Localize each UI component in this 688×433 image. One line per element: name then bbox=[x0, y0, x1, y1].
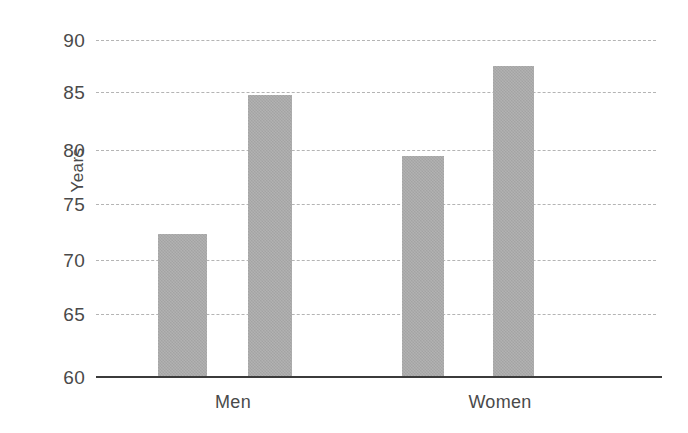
y-tick-label-75: 75 bbox=[63, 194, 85, 216]
plot-area: 90 85 80 75 70 65 60 bbox=[96, 28, 662, 388]
y-tick-label-65: 65 bbox=[63, 304, 85, 326]
y-tick-label-60: 60 bbox=[63, 367, 85, 389]
gridline-80: 80 bbox=[96, 150, 656, 151]
x-category-label-men: Men bbox=[215, 392, 251, 413]
bar-men-series1 bbox=[158, 234, 207, 376]
x-category-label-women: Women bbox=[468, 392, 531, 413]
bar-women-series2 bbox=[493, 66, 534, 376]
bar-men-series2 bbox=[248, 95, 292, 376]
gridline-75: 75 bbox=[96, 204, 656, 205]
y-tick-label-85: 85 bbox=[63, 82, 85, 104]
x-axis-baseline: 60 bbox=[96, 376, 662, 378]
bar-women-series1 bbox=[402, 156, 444, 376]
gridline-85: 85 bbox=[96, 92, 656, 93]
gridline-90: 90 bbox=[96, 40, 656, 41]
y-tick-label-70: 70 bbox=[63, 250, 85, 272]
y-tick-label-80: 80 bbox=[63, 140, 85, 162]
y-tick-label-90: 90 bbox=[63, 30, 85, 52]
bar-chart: Years 90 85 80 75 70 65 60 Men Women bbox=[0, 0, 688, 433]
